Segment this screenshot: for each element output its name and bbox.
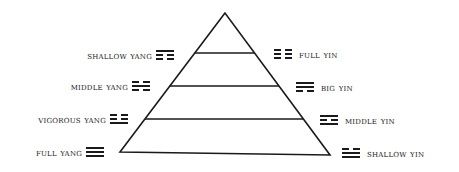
trigram-line-solid — [320, 115, 338, 117]
trigram-line-solid — [86, 155, 104, 157]
trigram-icon-shallow-yang — [156, 50, 174, 60]
trigram-icon-big-yin — [296, 82, 314, 92]
trigram-line-solid — [110, 122, 128, 124]
trigram-line-broken — [296, 90, 314, 92]
trigram-line-broken — [156, 58, 174, 60]
trigram-icon-full-yin — [274, 49, 292, 59]
trigram-line-broken — [342, 148, 360, 150]
trigram-line-broken — [110, 114, 128, 116]
trigram-line-broken — [156, 54, 174, 56]
label-shallow-yang: shallow yang — [87, 49, 152, 61]
trigram-icon-vigorous-yang — [110, 114, 128, 124]
trigram-icon-middle-yin — [320, 115, 338, 125]
label-middle-yang: middle yang — [71, 80, 128, 92]
trigram-icon-middle-yang — [132, 81, 150, 91]
trigram-line-solid — [296, 86, 314, 88]
trigram-line-broken — [274, 53, 292, 55]
label-full-yang: full yang — [36, 146, 82, 158]
trigram-line-broken — [320, 119, 338, 121]
label-shallow-yin: shallow yin — [367, 147, 424, 159]
trigram-line-solid — [296, 82, 314, 84]
trigram-line-solid — [86, 151, 104, 153]
trigram-line-broken — [132, 81, 150, 83]
trigram-icon-full-yang — [86, 147, 104, 157]
trigram-line-solid — [86, 147, 104, 149]
trigram-line-broken — [274, 57, 292, 59]
trigram-line-solid — [320, 123, 338, 125]
trigram-line-broken — [132, 89, 150, 91]
trigram-line-solid — [156, 50, 174, 52]
label-middle-yin: middle yin — [345, 114, 395, 126]
label-big-yin: big yin — [321, 81, 353, 93]
trigram-line-broken — [274, 49, 292, 51]
trigram-line-broken — [110, 118, 128, 120]
trigram-line-solid — [132, 85, 150, 87]
label-full-yin: full yin — [299, 48, 338, 60]
trigram-line-solid — [342, 156, 360, 158]
trigram-line-solid — [342, 152, 360, 154]
label-vigorous-yang: vigorous yang — [38, 113, 106, 125]
trigram-icon-shallow-yin — [342, 148, 360, 158]
